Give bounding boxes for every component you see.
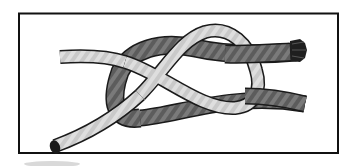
drop-shadow (24, 161, 80, 166)
knot-illustration (0, 0, 352, 166)
